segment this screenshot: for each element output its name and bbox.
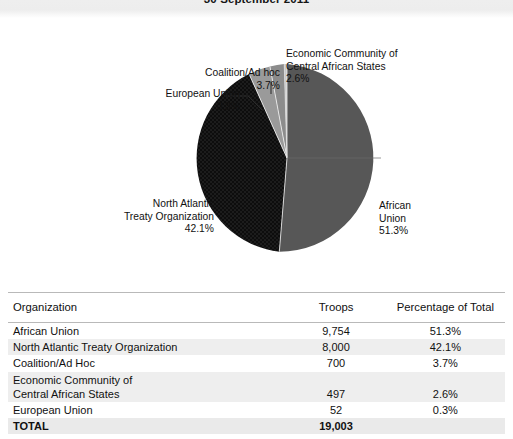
data-table-section: Organization Troops Percentage of Total …	[0, 286, 513, 439]
cell-percentage: 42.1%	[386, 339, 505, 355]
cell-percentage: 0.3%	[386, 402, 505, 418]
table-row: Coalition/Ad Hoc 700 3.7%	[8, 355, 505, 371]
cell-total-percentage	[386, 418, 505, 434]
cell-troops: 52	[286, 402, 385, 418]
table-header-row: Organization Troops Percentage of Total	[8, 293, 505, 323]
table-row: Economic Community of Central African St…	[8, 372, 505, 402]
cell-organization: African Union	[8, 323, 286, 340]
pie-label-nato-pct: 42.1%	[185, 223, 214, 234]
cell-troops: 700	[286, 355, 385, 371]
pie-label-eccas-line1: Economic Community of	[286, 48, 398, 59]
pie-label-nato-line2: Treaty Organization	[124, 211, 214, 222]
cell-organization: North Atlantic Treaty Organization	[8, 339, 286, 355]
page-title: 30 September 2011	[0, 0, 513, 5]
cell-total-label: TOTAL	[8, 418, 286, 434]
cell-percentage-spacer	[386, 373, 505, 387]
pie-label-eccas-line2: Central African States	[286, 61, 386, 72]
cell-organization-line2: Central African States	[13, 387, 286, 401]
chart-title-band: 30 September 2011	[0, 0, 513, 18]
pie-label-eccas: Economic Community of Central African St…	[286, 48, 398, 86]
pie-label-eu-name: European Union	[166, 88, 240, 99]
pie-label-eccas-pct: 2.6%	[286, 73, 309, 84]
pie-label-european-union: European Union 0.3%	[140, 88, 240, 113]
cell-organization: Economic Community of Central African St…	[8, 372, 286, 402]
cell-organization: European Union	[8, 402, 286, 418]
pie-label-african-union: African Union 51.3%	[379, 200, 411, 238]
pie-label-au-line1: African	[379, 200, 411, 211]
cell-total-troops: 19,003	[286, 418, 385, 434]
table-row: European Union 52 0.3%	[8, 402, 505, 418]
cell-troops-value: 497	[286, 387, 385, 401]
pie-label-au-line2: Union	[379, 213, 406, 224]
troops-table: Organization Troops Percentage of Total …	[8, 292, 505, 434]
pie-label-eu-pct: 0.3%	[217, 101, 240, 112]
cell-percentage: 2.6%	[386, 372, 505, 402]
table-header: Organization Troops Percentage of Total	[8, 293, 505, 323]
column-header-percentage: Percentage of Total	[386, 293, 505, 323]
pie-label-coalition-pct: 3.7%	[257, 80, 280, 91]
table-row: North Atlantic Treaty Organization 8,000…	[8, 339, 505, 355]
column-header-troops: Troops	[286, 293, 385, 323]
cell-organization-line1: Economic Community of	[13, 373, 286, 387]
cell-percentage-value: 2.6%	[386, 387, 505, 401]
table-body: African Union 9,754 51.3% North Atlantic…	[8, 323, 505, 435]
cell-troops: 8,000	[286, 339, 385, 355]
cell-percentage: 51.3%	[386, 323, 505, 340]
cell-troops-spacer	[286, 373, 385, 387]
cell-organization: Coalition/Ad Hoc	[8, 355, 286, 371]
table-row: African Union 9,754 51.3%	[8, 323, 505, 340]
cell-percentage: 3.7%	[386, 355, 505, 371]
pie-label-nato: North Atlantic Treaty Organization 42.1%	[104, 198, 214, 236]
pie-chart-figure: Economic Community of Central African St…	[0, 18, 513, 280]
cell-troops: 497	[286, 372, 385, 402]
table-total-row: TOTAL 19,003	[8, 418, 505, 434]
cell-troops: 9,754	[286, 323, 385, 340]
pie-label-nato-line1: North Atlantic	[153, 198, 214, 209]
pie-label-au-pct: 51.3%	[379, 225, 408, 236]
column-header-organization: Organization	[8, 293, 286, 323]
pie-label-coalition-name: Coalition/Ad hoc	[205, 67, 280, 78]
